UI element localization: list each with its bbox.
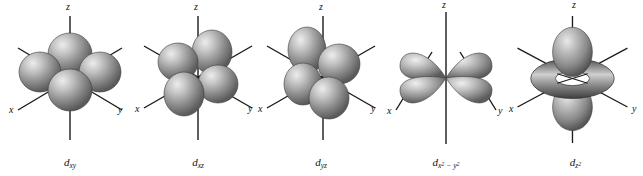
orbital-label-sub-dyz: yz xyxy=(321,161,327,170)
axis-label-z-dx2y2: z xyxy=(442,0,446,10)
axis-label-z-dxy: z xyxy=(66,2,70,12)
axis-label-y-dx2y2: y xyxy=(498,106,502,116)
axis-label-x-dz2: x xyxy=(509,104,513,114)
orbital-panel-dxz: z x y dxz xyxy=(134,0,262,176)
axis-label-z-dz2: z xyxy=(572,0,576,10)
orbital-label-dxz: dxz xyxy=(134,156,262,170)
orbital-label-dz2: dz2 xyxy=(508,156,643,170)
orbital-label-dx2y2: dx2 − y2 xyxy=(382,156,510,170)
axis-label-y-dyz: y xyxy=(371,104,375,114)
orbital-label-dyz: dyz xyxy=(257,156,385,170)
orbital-label-sub-dxz: xz xyxy=(198,161,204,170)
orbital-diagram-dxz xyxy=(134,0,262,176)
orbital-diagram-dx2y2 xyxy=(382,0,510,176)
orbital-label-dxy: dxy xyxy=(6,156,134,170)
axis-label-z-dyz: z xyxy=(319,2,323,12)
axis-label-x-dxy: x xyxy=(9,105,13,115)
orbital-panel-dxy: z x y dxy xyxy=(6,0,134,176)
sub-z-exp: 2 xyxy=(578,161,581,167)
axis-label-y-dz2: y xyxy=(632,104,636,114)
sub-minus-y: − y xyxy=(444,161,456,170)
orbital-label-sub-dx2y2: x2 − y2 xyxy=(438,161,459,170)
orbital-panel-dz2: z x y dz2 xyxy=(508,0,636,176)
axis-label-z-dxz: z xyxy=(194,2,198,12)
orbital-diagram-dyz xyxy=(257,0,385,176)
axis-label-x-dxz: x xyxy=(135,104,139,114)
orbital-panel-dx2y2: z x y dx2 − y2 xyxy=(382,0,510,176)
axis-label-x-dx2y2: x xyxy=(387,106,391,116)
axis-label-x-dyz: x xyxy=(258,104,262,114)
figure-title: Shapes of the five d orbitals xyxy=(0,0,1,1)
d-orbitals-figure: Shapes of the five d orbitals z xyxy=(0,0,643,176)
orbital-label-sub-dxy: xy xyxy=(69,161,76,170)
orbital-diagram-dxy xyxy=(6,0,134,176)
axis-label-y-dxy: y xyxy=(118,105,122,115)
sub-y-exp: 2 xyxy=(456,161,459,167)
orbital-panel-dyz: z x y dyz xyxy=(257,0,385,176)
orbital-label-sub-dz2: z2 xyxy=(575,161,581,170)
orbital-diagram-dz2 xyxy=(508,0,636,176)
axis-label-y-dxz: y xyxy=(248,104,252,114)
